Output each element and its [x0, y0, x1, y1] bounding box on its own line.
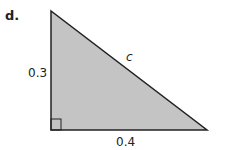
problem-label: d.: [5, 8, 19, 23]
horizontal-leg-label: 0.4: [116, 135, 135, 149]
vertical-leg-label: 0.3: [28, 66, 47, 80]
hypotenuse-label: c: [126, 50, 133, 64]
right-triangle-diagram: d. 0.3 c 0.4: [0, 0, 228, 150]
triangle-shape: [51, 11, 207, 130]
